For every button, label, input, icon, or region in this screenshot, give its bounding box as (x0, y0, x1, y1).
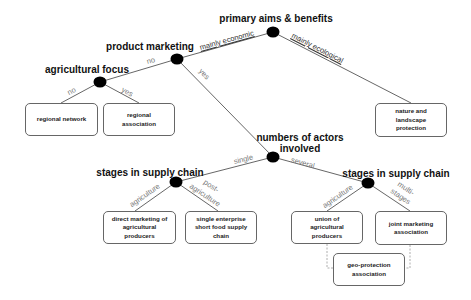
outcome-geo-protection: geo-protection association (333, 253, 405, 286)
label-actors-line1: numbers of actors (256, 132, 343, 143)
label-agricultural-focus: agricultural focus (45, 64, 129, 75)
decision-node-root (267, 27, 280, 38)
outcome-union-producers: union of agricultural producers (291, 211, 363, 244)
label-actors-line2: involved (280, 143, 321, 154)
outcome-regional-network: regional network (25, 103, 98, 136)
outcome-nature-protection: nature and landscape protection (375, 103, 447, 137)
outcome-joint-marketing: joint marketing association (375, 211, 447, 245)
edge-root-nature (273, 32, 411, 103)
label-stages-left: stages in supply chain (96, 167, 203, 178)
dashed-link-joint-geo (405, 245, 410, 268)
decision-node-agri (94, 77, 107, 88)
outcome-single-enterprise: single enterprise short food supply chai… (185, 211, 257, 244)
outcome-regional-association: regional association (103, 103, 175, 136)
outcome-direct-marketing: direct marketing of agricultural produce… (103, 211, 176, 244)
decision-node-stagesL (170, 177, 183, 188)
decision-node-actors (267, 152, 280, 163)
decision-node-product (171, 54, 184, 65)
decision-node-stagesR (362, 178, 375, 189)
label-product-marketing: product marketing (106, 41, 194, 52)
label-stages-right: stages in supply chain (342, 168, 449, 179)
label-primary-aims: primary aims & benefits (219, 13, 332, 24)
